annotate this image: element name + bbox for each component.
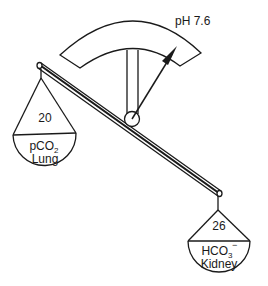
right-pan-organ: Kidney bbox=[201, 257, 238, 271]
ph-gauge bbox=[60, 21, 201, 68]
acid-base-balance-diagram: pH 7.6 20 pCO2 Lung 26 HCO3 − Kidney bbox=[0, 0, 268, 286]
right-pan-value: 26 bbox=[212, 219, 226, 233]
ph-needle-arrow-icon bbox=[132, 46, 177, 119]
gauge-post bbox=[127, 50, 138, 114]
left-pan-organ: Lung bbox=[32, 152, 59, 166]
balance-beam bbox=[37, 63, 222, 197]
ph-label: pH 7.6 bbox=[175, 14, 211, 28]
left-pan-value: 20 bbox=[38, 111, 52, 125]
right-pan-charge: − bbox=[232, 240, 237, 250]
